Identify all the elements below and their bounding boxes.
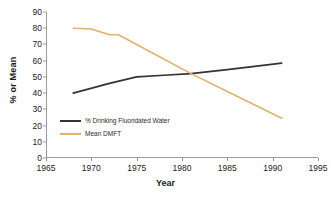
y-tick-label: 60: [33, 56, 42, 66]
plot-area: 0102030405060708090 19651970197519801985…: [46, 12, 318, 158]
x-axis-title: Year: [0, 178, 331, 188]
legend-item-label: % Drinking Fluoridated Water: [85, 118, 170, 125]
series-line-mean-dmft: [73, 28, 282, 118]
x-tick-mark: [137, 158, 138, 161]
x-tick-mark: [318, 158, 319, 161]
x-tick-label: 1980: [173, 163, 192, 173]
y-tick-label: 30: [33, 104, 42, 114]
chart-legend: % Drinking Fluoridated WaterMean DMFT: [60, 116, 170, 139]
y-tick-label: 40: [33, 88, 42, 98]
x-tick-label: 1985: [218, 163, 237, 173]
x-tick-label: 1975: [127, 163, 146, 173]
y-tick-label: 80: [33, 23, 42, 33]
y-tick-label: 90: [33, 7, 42, 17]
legend-item[interactable]: % Drinking Fluoridated Water: [60, 116, 170, 126]
series-line-fluoridated-water: [73, 63, 282, 93]
x-tick-label: 1970: [82, 163, 101, 173]
y-tick-label: 20: [33, 121, 42, 131]
y-axis-title-text: % or Mean: [8, 57, 18, 104]
x-tick-mark: [46, 158, 47, 161]
y-tick-label: 0: [37, 153, 42, 163]
y-tick-label: 70: [33, 39, 42, 49]
x-tick-mark: [227, 158, 228, 161]
x-tick-mark: [91, 158, 92, 161]
legend-item-label: Mean DMFT: [85, 131, 121, 138]
x-tick-label: 1965: [37, 163, 56, 173]
x-tick-label: 1990: [263, 163, 282, 173]
y-axis-title: % or Mean: [2, 0, 24, 160]
chart-figure: % or Mean 0102030405060708090 1965197019…: [0, 0, 331, 198]
x-axis-title-text: Year: [156, 178, 175, 188]
y-tick-label: 10: [33, 137, 42, 147]
legend-item[interactable]: Mean DMFT: [60, 129, 170, 139]
y-tick-label: 50: [33, 72, 42, 82]
legend-swatch-icon: [60, 120, 81, 122]
x-tick-mark: [182, 158, 183, 161]
x-tick-mark: [273, 158, 274, 161]
x-tick-label: 1995: [309, 163, 328, 173]
legend-swatch-icon: [60, 133, 81, 135]
